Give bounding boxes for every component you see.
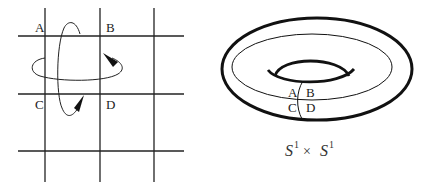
horizontal-loop (32, 58, 122, 80)
torus-label-b: B (306, 85, 315, 100)
torus-label-c: C (288, 100, 297, 115)
caption-sup-1: 1 (294, 139, 299, 150)
torus-label-d: D (306, 100, 315, 115)
diagram-canvas: A B C D A B C D S 1 × S 1 (0, 0, 428, 188)
arrowhead-icon (74, 95, 84, 112)
grid-label-b: B (106, 20, 115, 35)
torus-hole-lower (268, 69, 354, 82)
caption-sup-2: 1 (329, 139, 334, 150)
caption-operator: × (303, 144, 311, 159)
torus-outer-boundary (222, 18, 412, 120)
grid-label-c: C (35, 97, 44, 112)
grid-label-a: A (35, 20, 45, 35)
grid-label-d: D (106, 97, 115, 112)
torus-panel (222, 18, 412, 120)
torus-label-a: A (288, 85, 298, 100)
caption-base-1: S (285, 142, 293, 159)
caption-s1xs1: S 1 × S 1 (285, 139, 334, 159)
torus-hole-upper (275, 61, 349, 76)
caption-base-2: S (320, 142, 328, 159)
